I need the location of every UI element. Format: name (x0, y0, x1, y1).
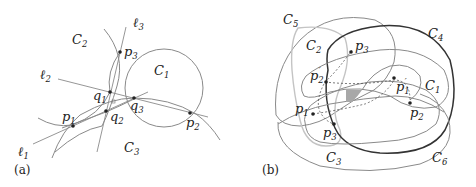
panel-a-label: (a) (14, 163, 31, 177)
point-q1 (108, 90, 112, 94)
label-l1: ℓ1 (18, 144, 29, 161)
curve-c2-inner (38, 52, 120, 126)
panel-b-label: (b) (262, 163, 279, 177)
label-l3: ℓ3 (133, 15, 144, 32)
label-c3: C3 (124, 140, 139, 157)
label-c1: C1 (425, 78, 440, 95)
panel-b: C5 C2 C4 C1 C3 C6 p1 p2 p3 p1′ p2′ p3′ (… (262, 12, 454, 177)
label-c4: C4 (428, 26, 443, 43)
label-l2: ℓ2 (40, 67, 51, 84)
label-p1: p1 (62, 109, 76, 126)
figure: C1 C2 C3 ℓ1 ℓ2 ℓ3 p1 p2 p3 q1 q2 q3 (a) (0, 0, 476, 187)
label-c1: C1 (154, 63, 169, 80)
panel-a: C1 C2 C3 ℓ1 ℓ2 ℓ3 p1 p2 p3 q1 q2 q3 (a) (14, 15, 220, 177)
label-p3: p3 (124, 44, 138, 61)
label-p1prime: p1′ (396, 77, 410, 96)
point-q2 (104, 109, 108, 113)
label-c2: C2 (306, 38, 321, 55)
line-l3 (97, 27, 126, 152)
label-p1: p1 (295, 101, 309, 118)
label-p2: p2 (410, 105, 424, 122)
label-c6: C6 (432, 150, 448, 167)
label-c2: C2 (72, 32, 87, 49)
label-q2: q2 (110, 109, 124, 126)
label-p2prime: p2′ (310, 66, 324, 85)
point-p1 (311, 112, 315, 116)
label-p3: p3 (355, 38, 369, 55)
label-c5: C5 (283, 12, 298, 29)
point-p3 (349, 50, 353, 54)
point-p2prime (324, 80, 328, 84)
label-p2: p2 (186, 115, 200, 132)
point-p3 (118, 50, 122, 54)
label-c3: C3 (326, 150, 341, 167)
